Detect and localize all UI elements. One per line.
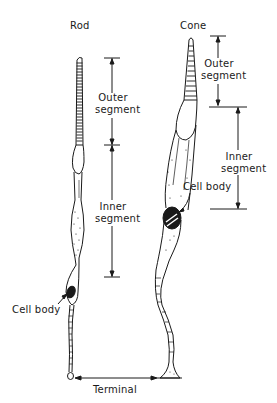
rod-outer-segment-label-1: Outer [95,92,131,103]
rod-cell-body-label: Cell body [12,304,60,315]
rod-inner-segment-label-2: segment [95,213,131,224]
rod-title: Rod [70,20,90,31]
cone-outer-segment-label-2: segment [201,70,237,81]
cone-inner-segment-label-2: segment [221,163,257,174]
photoreceptor-diagram: Rod Cone Outer segment Inner segment Cel… [0,0,277,403]
cone-cell-illustration [155,38,197,378]
cone-title: Cone [180,20,206,31]
rod-cell-illustration [65,57,84,379]
rod-inner-segment-label-1: Inner [95,201,131,212]
cone-inner-segment-label-1: Inner [221,151,257,162]
cone-outer-segment-label-1: Outer [201,58,237,69]
terminal-arrow [75,376,157,380]
rod-outer-segment-label-2: segment [95,104,131,115]
terminal-label: Terminal [93,384,137,395]
cone-cell-body-label: Cell body [183,181,231,192]
